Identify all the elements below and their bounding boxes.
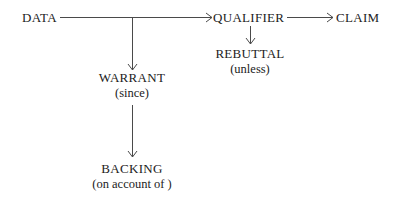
node-claim: CLAIM [336, 11, 379, 24]
edge-qualifier-to-claim [287, 13, 333, 22]
node-rebuttal-label: REBUTTAL [200, 47, 300, 60]
node-qualifier-label: QUALIFIER [213, 10, 284, 25]
edge-to-warrant [128, 18, 137, 71]
node-rebuttal-sub: (unless) [200, 63, 300, 76]
node-rebuttal: REBUTTAL (unless) [200, 47, 300, 76]
node-backing-label: BACKING [77, 162, 187, 175]
edge-qualifier-to-rebuttal [246, 26, 255, 44]
node-warrant-sub: (since) [82, 87, 182, 100]
node-backing-sub: (on account of ) [77, 178, 187, 191]
node-claim-label: CLAIM [336, 10, 379, 25]
node-qualifier: QUALIFIER [213, 11, 284, 24]
node-data-label: DATA [22, 10, 57, 25]
node-backing: BACKING (on account of ) [77, 162, 187, 191]
edge-warrant-to-backing [128, 105, 137, 157]
node-warrant: WARRANT (since) [82, 71, 182, 100]
diagram-edges [0, 0, 393, 198]
edge-data-to-qualifier [60, 13, 212, 22]
node-data: DATA [22, 11, 57, 24]
node-warrant-label: WARRANT [82, 71, 182, 84]
